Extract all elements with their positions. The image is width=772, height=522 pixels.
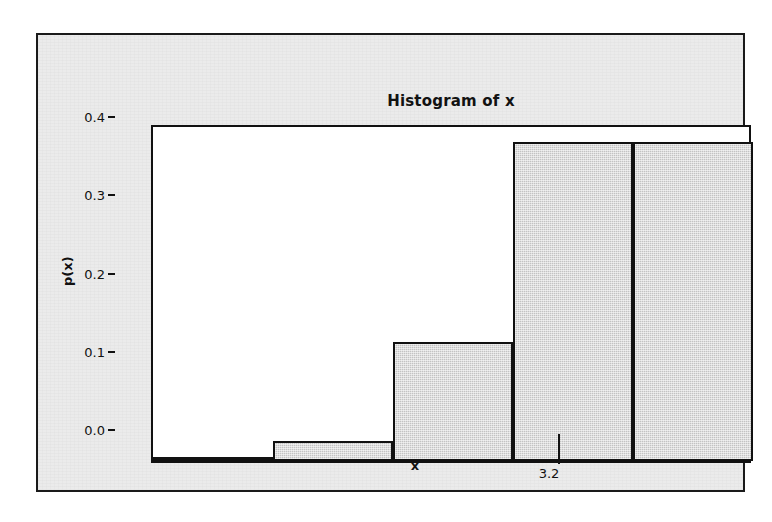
plot-area bbox=[153, 127, 749, 461]
figure-panel: Histogram of x p(x) 0.00.10.20.30.4 0123… bbox=[36, 33, 745, 492]
histogram-bar bbox=[513, 142, 633, 461]
plot-frame bbox=[151, 125, 751, 463]
x-axis-label: x bbox=[411, 458, 419, 473]
chart-title: Histogram of x bbox=[151, 92, 751, 110]
histogram-bar bbox=[633, 142, 753, 461]
y-tick-mark bbox=[108, 273, 115, 275]
y-tick-label: 0.3 bbox=[67, 188, 105, 203]
y-tick-label: 0.4 bbox=[67, 110, 105, 125]
y-tick-mark bbox=[108, 351, 115, 353]
mean-marker-line bbox=[558, 434, 560, 464]
y-tick-label: 0.0 bbox=[67, 423, 105, 438]
histogram-bar bbox=[273, 441, 393, 461]
mean-marker-label: 3.2 bbox=[539, 466, 560, 481]
y-tick-label: 0.2 bbox=[67, 266, 105, 281]
histogram-bar bbox=[393, 342, 513, 461]
y-tick-mark bbox=[108, 194, 115, 196]
y-tick-mark bbox=[108, 429, 115, 431]
histogram-bar bbox=[153, 457, 273, 461]
y-tick-mark bbox=[108, 116, 115, 118]
y-tick-label: 0.1 bbox=[67, 344, 105, 359]
